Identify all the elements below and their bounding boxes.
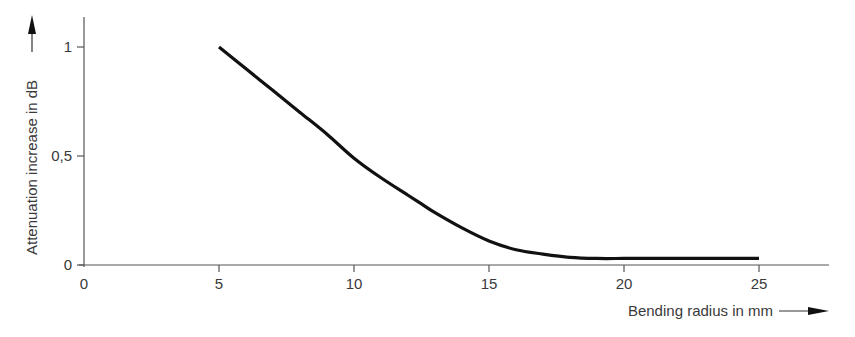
x-axis-label: Bending radius in mm bbox=[628, 302, 829, 319]
x-tick-label: 25 bbox=[751, 275, 768, 292]
x-tick-label: 10 bbox=[346, 275, 363, 292]
data-line bbox=[219, 47, 759, 259]
y-tick-label: 0,5 bbox=[51, 147, 72, 164]
y-ticks: 00,51 bbox=[51, 38, 84, 273]
x-ticks: 0510152025 bbox=[80, 265, 768, 292]
x-tick-label: 0 bbox=[80, 275, 88, 292]
axes: 0510152025 00,51 bbox=[51, 17, 829, 292]
x-axis-label-arrow-icon bbox=[808, 307, 829, 315]
x-tick-label: 5 bbox=[215, 275, 223, 292]
x-tick-label: 20 bbox=[616, 275, 633, 292]
y-axis-label-text: Attenuation increase in dB bbox=[23, 80, 40, 255]
x-axis-label-text: Bending radius in mm bbox=[628, 302, 773, 319]
y-tick-label: 1 bbox=[64, 38, 72, 55]
x-tick-label: 15 bbox=[481, 275, 498, 292]
attenuation-chart: 0510152025 00,51 Attenuation increase in… bbox=[0, 0, 855, 337]
y-tick-label: 0 bbox=[64, 256, 72, 273]
y-axis-label: Attenuation increase in dB bbox=[23, 15, 40, 255]
y-axis-label-arrow-icon bbox=[28, 15, 36, 34]
